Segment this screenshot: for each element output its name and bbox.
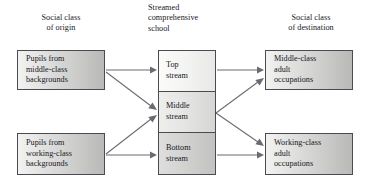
node-label: Middle-class adult occupations (266, 54, 352, 86)
node-middle-class-adult-occupations: Middle-class adult occupations (265, 50, 353, 90)
flow-diagram: Social class of origin Streamed comprehe… (0, 0, 366, 183)
node-pupils-middle-class-backgrounds: Pupils from middle-class backgrounds (17, 50, 105, 90)
arrow-origin-working-to-bottom-stream (106, 152, 157, 159)
node-label: Top stream (159, 60, 188, 81)
arrow-middle-stream-to-middle-class (216, 78, 264, 113)
column-heading-origin: Social class of origin (17, 13, 105, 34)
arrow-origin-middle-to-middle-stream (106, 72, 157, 110)
arrow-top-stream-to-middle-class (217, 67, 264, 74)
node-bottom-stream: Bottom stream (158, 132, 216, 175)
node-label: Pupils from middle-class backgrounds (18, 54, 104, 86)
arrow-middle-stream-to-working-class (216, 113, 264, 146)
node-middle-stream: Middle stream (158, 91, 216, 133)
node-label: Working-class adult occupations (266, 138, 352, 170)
node-label: Bottom stream (159, 143, 191, 164)
column-heading-destination: Social class of destination (265, 13, 357, 34)
node-working-class-adult-occupations: Working-class adult occupations (265, 133, 353, 175)
node-label: Middle stream (159, 101, 190, 122)
column-heading-school: Streamed comprehensive school (148, 3, 228, 34)
arrow-origin-working-to-middle-stream (106, 115, 157, 154)
node-top-stream: Top stream (158, 50, 216, 92)
node-label: Pupils from working-class backgrounds (18, 138, 104, 170)
arrow-bottom-stream-to-working-class (217, 152, 264, 159)
node-pupils-working-class-backgrounds: Pupils from working-class backgrounds (17, 133, 105, 175)
arrow-origin-middle-to-top-stream (106, 67, 157, 74)
